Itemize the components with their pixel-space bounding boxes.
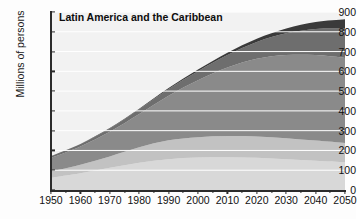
- x-tick-label-2020: 2020: [245, 194, 268, 206]
- x-tick-label-2050: 2050: [333, 194, 356, 206]
- y-tick-mark-0: [51, 189, 55, 190]
- x-tick-mark-2040: [315, 190, 316, 194]
- y-tick-mark-300: [51, 130, 55, 131]
- x-tick-mark-2050: [344, 190, 345, 194]
- x-tick-mark-2010: [227, 190, 228, 194]
- y-tick-mark-800: [51, 31, 55, 32]
- x-tick-label-1970: 1970: [98, 194, 121, 206]
- y-tick-label-600: 600: [310, 65, 356, 77]
- y-tick-mark-500: [51, 91, 55, 92]
- y-tick-label-200: 200: [310, 144, 356, 156]
- y-tick-label-900: 900: [310, 6, 356, 18]
- x-tick-label-2010: 2010: [216, 194, 239, 206]
- x-tick-mark-1980: [139, 190, 140, 194]
- x-tick-label-2000: 2000: [186, 194, 209, 206]
- y-tick-mark-700: [51, 51, 55, 52]
- x-tick-label-2040: 2040: [304, 194, 327, 206]
- x-tick-mark-minor-1955: [65, 190, 66, 193]
- y-tick-mark-200: [51, 150, 55, 151]
- stacked-area-series: [51, 12, 345, 190]
- x-tick-mark-minor-2015: [242, 190, 243, 193]
- x-tick-mark-minor-2025: [271, 190, 272, 193]
- x-tick-mark-1960: [80, 190, 81, 194]
- x-tick-label-1980: 1980: [128, 194, 151, 206]
- x-tick-mark-1970: [109, 190, 110, 194]
- chart-title: Latin America and the Caribbean: [59, 11, 223, 23]
- x-tick-mark-minor-2035: [300, 190, 301, 193]
- y-tick-mark-400: [51, 110, 55, 111]
- x-tick-mark-minor-2045: [330, 190, 331, 193]
- y-tick-mark-100: [51, 170, 55, 171]
- y-axis-line: [50, 11, 52, 191]
- y-tick-label-500: 500: [310, 85, 356, 97]
- y-tick-label-400: 400: [310, 105, 356, 117]
- x-tick-mark-2000: [197, 190, 198, 194]
- plot-area: [51, 12, 345, 190]
- x-tick-mark-minor-2005: [212, 190, 213, 193]
- x-tick-mark-2030: [286, 190, 287, 194]
- x-tick-mark-2020: [256, 190, 257, 194]
- y-tick-label-700: 700: [310, 46, 356, 58]
- y-axis-title: Millions of persons: [14, 0, 26, 134]
- y-tick-mark-600: [51, 71, 55, 72]
- x-tick-label-1950: 1950: [39, 194, 62, 206]
- x-tick-mark-minor-1965: [95, 190, 96, 193]
- x-tick-label-2030: 2030: [275, 194, 298, 206]
- y-tick-mark-900: [51, 11, 55, 12]
- y-tick-label-800: 800: [310, 26, 356, 38]
- y-tick-label-300: 300: [310, 125, 356, 137]
- x-tick-label-1960: 1960: [69, 194, 92, 206]
- y-tick-label-100: 100: [310, 164, 356, 176]
- x-tick-mark-minor-1985: [153, 190, 154, 193]
- x-tick-mark-minor-1975: [124, 190, 125, 193]
- x-tick-label-1990: 1990: [157, 194, 180, 206]
- x-tick-mark-1990: [168, 190, 169, 194]
- x-tick-mark-minor-1995: [183, 190, 184, 193]
- x-tick-mark-1950: [50, 190, 51, 194]
